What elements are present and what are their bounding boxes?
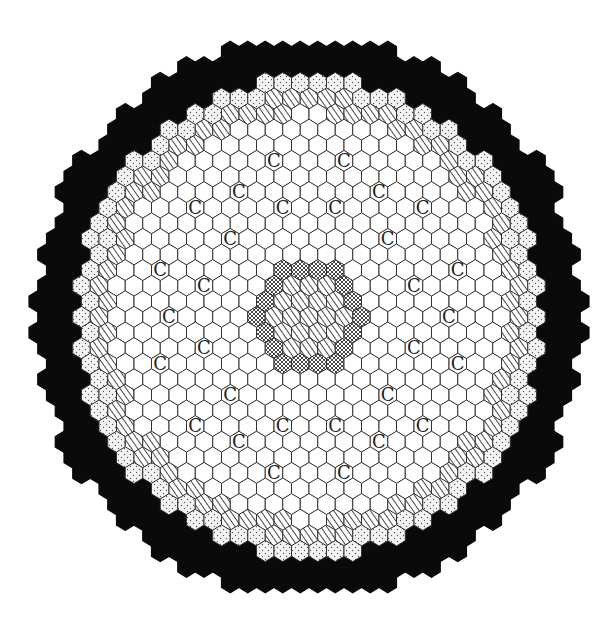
control-rod-label: C — [407, 275, 421, 296]
hex-cell-black — [449, 540, 467, 561]
control-rod-label: C — [328, 415, 342, 436]
control-rod-label: C — [267, 150, 281, 171]
hex-cell-black — [309, 572, 327, 593]
control-rod-label: C — [372, 181, 386, 202]
reactor-core-map: CCCCCCCCCCCCCCCCCCCCCCCCCCCCCC — [0, 0, 615, 634]
control-rod-label: C — [276, 415, 290, 436]
hex-cells — [29, 41, 589, 593]
hex-cell-dots — [292, 540, 310, 561]
hex-cell-black — [327, 572, 345, 593]
hex-cell-black — [528, 462, 546, 483]
control-rod-label: C — [372, 431, 386, 452]
hex-cell-black — [222, 572, 240, 593]
hex-cell-dots — [160, 494, 178, 515]
hex-cell-black — [405, 556, 423, 577]
control-rod-label: C — [416, 415, 430, 436]
control-rod-label: C — [162, 306, 176, 327]
control-rod-label: C — [337, 462, 351, 483]
control-rod-label: C — [407, 337, 421, 358]
hex-cell-black — [423, 556, 441, 577]
control-rod-label: C — [153, 259, 167, 280]
control-rod-label: C — [337, 150, 351, 171]
control-rod-label: C — [276, 197, 290, 218]
hex-cell-dots — [230, 525, 248, 546]
hex-cell-black — [344, 572, 362, 593]
control-rod-label: C — [197, 337, 211, 358]
hex-cell-black — [484, 509, 502, 530]
hex-cell-black — [239, 572, 257, 593]
hex-cell-dots — [370, 525, 388, 546]
hex-cell-dots — [125, 462, 143, 483]
hex-cell-black — [274, 572, 292, 593]
hex-cell-black — [257, 572, 275, 593]
control-rod-label: C — [223, 384, 237, 405]
control-rod-label: C — [153, 353, 167, 374]
hex-cell-black — [117, 509, 135, 530]
control-rod-label: C — [232, 181, 246, 202]
control-rod-label: C — [451, 259, 465, 280]
control-rod-label: C — [232, 431, 246, 452]
control-rod-label: C — [223, 228, 237, 249]
hex-cell-black — [292, 572, 310, 593]
hex-cell-black — [379, 572, 397, 593]
hex-cell-dots — [187, 509, 205, 530]
hex-cell-dots — [440, 494, 458, 515]
control-rod-label: C — [416, 197, 430, 218]
hex-cell-dots — [344, 540, 362, 561]
hex-cell-dots — [309, 540, 327, 561]
control-rod-label: C — [451, 353, 465, 374]
control-rod-label: C — [381, 228, 395, 249]
control-rod-label: C — [328, 197, 342, 218]
hex-cell-black — [362, 572, 380, 593]
hex-cell-black — [195, 556, 213, 577]
hex-cell-dots — [327, 540, 345, 561]
hex-cell-dots — [475, 462, 493, 483]
hex-cell-dots — [414, 509, 432, 530]
hex-cell-dots — [257, 540, 275, 561]
control-rod-label: C — [267, 462, 281, 483]
hex-cell-dots — [274, 540, 292, 561]
hex-cell-dots — [213, 525, 231, 546]
control-rod-label: C — [442, 306, 456, 327]
hex-cell-black — [178, 556, 196, 577]
hex-cell-dots — [388, 525, 406, 546]
hex-cell-black — [152, 540, 170, 561]
control-rod-label: C — [381, 384, 395, 405]
hex-cell-black — [73, 462, 91, 483]
control-rod-label: C — [188, 197, 202, 218]
control-rod-label: C — [197, 275, 211, 296]
control-rod-label: C — [188, 415, 202, 436]
